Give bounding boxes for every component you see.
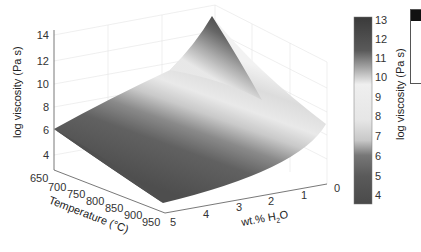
- svg-text:4: 4: [375, 189, 381, 201]
- svg-text:1: 1: [301, 189, 307, 201]
- svg-text:9: 9: [375, 91, 381, 103]
- svg-text:7: 7: [375, 130, 381, 142]
- svg-text:2: 2: [268, 195, 274, 207]
- cropped-panel-header: [411, 10, 421, 21]
- svg-text:14: 14: [37, 29, 49, 41]
- z-axis-label: log viscosity (Pa s): [11, 46, 23, 138]
- svg-text:5: 5: [170, 216, 176, 228]
- svg-text:650: 650: [30, 172, 48, 184]
- svg-text:6: 6: [375, 150, 381, 162]
- svg-text:950: 950: [142, 216, 160, 228]
- svg-text:700: 700: [48, 181, 66, 193]
- svg-text:10: 10: [37, 78, 49, 90]
- svg-text:6: 6: [43, 124, 49, 136]
- svg-text:8: 8: [375, 110, 381, 122]
- water-axis-label: wt.% H2O: [239, 208, 289, 230]
- svg-text:4: 4: [203, 208, 209, 220]
- svg-text:0: 0: [334, 182, 340, 194]
- svg-text:11: 11: [375, 52, 386, 64]
- viscosity-surface: [54, 16, 326, 203]
- svg-text:750: 750: [67, 188, 85, 200]
- cropped-panel: [410, 9, 421, 84]
- colorbar: 13 12 11 10 9 8 7 6 5 4: [354, 14, 387, 204]
- svg-text:13: 13: [375, 14, 387, 26]
- svg-text:800: 800: [86, 195, 104, 207]
- svg-text:12: 12: [375, 33, 387, 45]
- svg-text:3: 3: [236, 201, 242, 213]
- svg-text:5: 5: [375, 170, 381, 182]
- svg-text:4: 4: [43, 149, 49, 161]
- svg-text:10: 10: [375, 71, 387, 83]
- svg-text:900: 900: [124, 209, 142, 221]
- svg-text:850: 850: [105, 202, 123, 214]
- z-axis-ticks: 14 12 10 8 6 4: [37, 29, 49, 161]
- svg-text:8: 8: [43, 101, 49, 113]
- svg-text:12: 12: [37, 55, 49, 67]
- colorbar-label: log viscosity (Pa s): [394, 48, 406, 140]
